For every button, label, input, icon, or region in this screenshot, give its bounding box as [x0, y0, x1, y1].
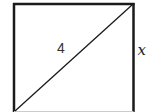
diagonal-line: [15, 5, 132, 111]
diagonal-label: 4: [57, 40, 65, 56]
square-diagram: 4 x: [0, 0, 153, 112]
side-label: x: [138, 41, 147, 59]
